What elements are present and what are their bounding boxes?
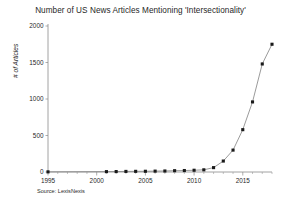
data-point-marker <box>124 170 127 173</box>
data-point-marker <box>163 169 166 172</box>
data-point-marker <box>154 170 157 173</box>
data-point-marker <box>173 169 176 172</box>
x-tick-label: 2015 <box>236 177 251 184</box>
chart-figure: Number of US News Articles Mentioning 'I… <box>0 0 281 205</box>
data-point-marker <box>134 170 137 173</box>
data-point-marker <box>212 166 215 169</box>
x-axis: 19952000200520102015 <box>41 172 272 184</box>
series-line <box>48 44 272 172</box>
data-point-marker <box>241 128 244 131</box>
y-tick-label: 2000 <box>29 22 44 29</box>
data-point-marker <box>105 170 108 173</box>
data-point-marker <box>231 149 234 152</box>
data-point-marker <box>115 170 118 173</box>
y-axis: 0500100015002000 <box>29 22 48 175</box>
x-tick-label: 1995 <box>41 177 56 184</box>
y-tick-label: 1000 <box>29 95 44 102</box>
y-tick-label: 0 <box>40 168 44 175</box>
data-point-marker <box>193 169 196 172</box>
x-tick-label: 2010 <box>187 177 202 184</box>
data-point-marker <box>222 160 225 163</box>
plot-area: 0500100015002000 19952000200520102015 <box>0 0 281 205</box>
y-tick-label: 500 <box>33 132 44 139</box>
data-point-marker <box>183 169 186 172</box>
data-point-marker <box>202 168 205 171</box>
data-series <box>46 43 273 174</box>
source-note: Source: LexisNexis <box>37 188 85 194</box>
data-point-marker <box>46 170 49 173</box>
data-point-marker <box>261 62 264 65</box>
x-tick-label: 2005 <box>138 177 153 184</box>
y-tick-label: 1500 <box>29 59 44 66</box>
data-point-marker <box>251 100 254 103</box>
data-point-marker <box>144 170 147 173</box>
data-point-marker <box>270 43 273 46</box>
x-tick-label: 2000 <box>90 177 105 184</box>
